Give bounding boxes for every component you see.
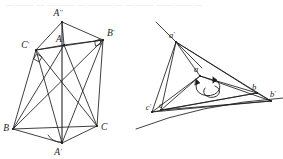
vertex-dot-B [12, 128, 14, 130]
label-B: B [3, 123, 9, 133]
segment-Cp-Ap [36, 50, 62, 143]
conic-baseline [136, 98, 283, 129]
segment-App-Bp [62, 22, 103, 40]
label-A-double-prime: A′′ [53, 8, 63, 18]
segment-ap-cp [152, 42, 176, 112]
right-figure: a′ a b b′ c c′ [136, 22, 283, 129]
vertex-dot-Cp [35, 49, 37, 51]
segment-Cp-C [36, 50, 97, 126]
label-c-prime: c′ [146, 102, 152, 112]
label-b-prime: b′ [270, 89, 276, 99]
segment-Bp-B [13, 40, 103, 129]
segment-C-Ap [62, 126, 97, 143]
label-b: b [252, 82, 256, 92]
label-a-prime: a′ [169, 30, 175, 40]
vertex-dot-App [61, 21, 63, 23]
right-figure-segments [152, 42, 271, 112]
vertex-dot-Bp [102, 39, 104, 41]
vertex-dot-a [199, 75, 201, 77]
geometry-figures: A′′ A B′ C′ B C A′ [0, 0, 283, 159]
label-a: a [194, 64, 198, 74]
rotation-arc-inner-arrowhead [195, 79, 200, 85]
label-A: A [55, 34, 62, 44]
segment-A-C [64, 45, 97, 126]
vertex-dot-b [256, 92, 258, 94]
left-figure-labels: A′′ A B′ C′ B C A′ [3, 8, 115, 157]
segment-a-c [161, 76, 200, 110]
vertex-dot-ap [175, 41, 177, 43]
segment-Cp-Bp [36, 40, 103, 50]
label-C: C [101, 122, 108, 132]
label-c: c [159, 100, 163, 110]
vertex-dot-Ap [61, 142, 63, 144]
label-C-prime: C′ [21, 40, 29, 50]
segment-a-b [200, 76, 257, 93]
label-B-prime: B′ [107, 28, 115, 38]
segment-B-C [13, 126, 97, 129]
label-A-prime: A′ [53, 147, 62, 157]
vertex-dot-cp [151, 111, 153, 113]
diagram-page: — —— — — —— — ——— — — —— —— —— — [0, 0, 283, 159]
right-figure-rotation-markers [195, 77, 220, 97]
vertex-dot-C [96, 125, 98, 127]
right-figure-labels: a′ a b b′ c c′ [146, 30, 277, 112]
left-figure: A′′ A B′ C′ B C A′ [3, 8, 115, 157]
line-through-a-prime [156, 22, 202, 68]
vertex-dot-A [63, 44, 65, 46]
vertex-dot-bp [270, 100, 272, 102]
